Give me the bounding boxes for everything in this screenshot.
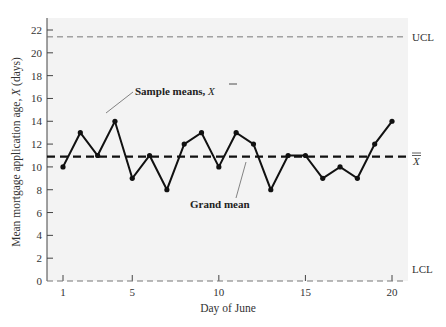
- x-tick-label: 5: [130, 286, 136, 298]
- y-tick-label: 14: [31, 115, 43, 127]
- y-tick-label: 12: [31, 138, 42, 150]
- data-point: [78, 130, 83, 135]
- y-tick-label: 16: [31, 92, 43, 104]
- data-point: [60, 164, 65, 169]
- y-tick-label: 0: [37, 275, 43, 287]
- ucl-label: UCL: [412, 31, 434, 43]
- control-chart: 0246810121416182022 15101520 Sample mean…: [0, 0, 446, 327]
- data-point: [268, 187, 273, 192]
- data-point: [216, 164, 221, 169]
- data-point: [112, 119, 117, 124]
- y-axis-title: Mean mortgage application age, X (days): [10, 57, 23, 247]
- data-point: [130, 176, 135, 181]
- data-point: [303, 153, 308, 158]
- grand-mean-label: X: [412, 155, 421, 167]
- x-tick-label: 15: [300, 286, 312, 298]
- y-tick-label: 4: [37, 229, 43, 241]
- x-axis-title: Day of June: [200, 302, 256, 315]
- data-point: [234, 130, 239, 135]
- sample-means-annotation: Sample means, X: [135, 85, 216, 97]
- grand-mean-annotation: Grand mean: [190, 198, 250, 210]
- data-point: [320, 176, 325, 181]
- x-tick-label: 1: [60, 286, 66, 298]
- data-point: [286, 153, 291, 158]
- data-point: [147, 153, 152, 158]
- y-tick-label: 22: [31, 24, 42, 36]
- x-tick-label: 20: [387, 286, 399, 298]
- y-tick-label: 2: [37, 252, 43, 264]
- x-tick-label: 10: [213, 286, 225, 298]
- data-point: [355, 176, 360, 181]
- y-tick-label: 10: [31, 161, 43, 173]
- lcl-label: LCL: [412, 263, 433, 275]
- data-point: [389, 119, 394, 124]
- data-point: [251, 141, 256, 146]
- y-tick-label: 18: [31, 70, 43, 82]
- data-point: [182, 141, 187, 146]
- y-tick-label: 6: [37, 207, 43, 219]
- y-tick-label: 8: [37, 184, 43, 196]
- data-point: [337, 164, 342, 169]
- y-tick-label: 20: [31, 47, 43, 59]
- data-point: [372, 141, 377, 146]
- data-point: [199, 130, 204, 135]
- data-point: [95, 153, 100, 158]
- data-point: [164, 187, 169, 192]
